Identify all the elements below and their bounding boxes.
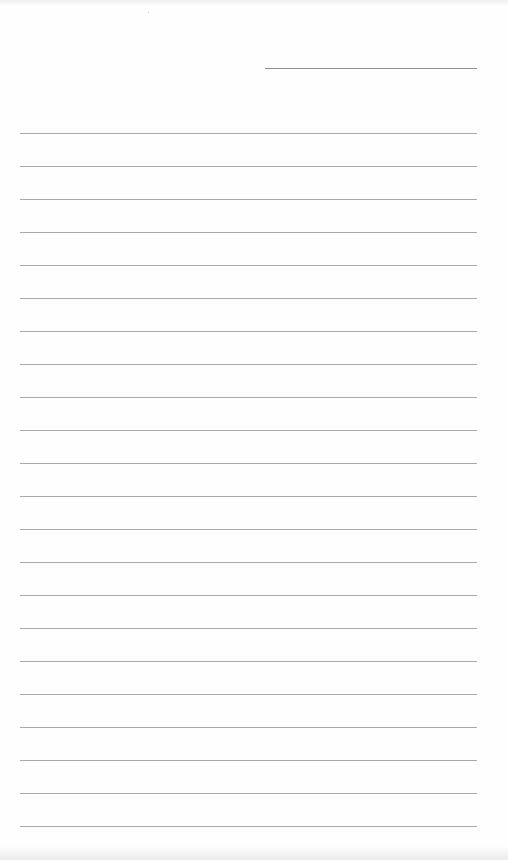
- ruled-line: [20, 529, 477, 530]
- ruled-line: [20, 199, 477, 200]
- paper-speck: [148, 12, 149, 13]
- bottom-edge-shade: [0, 846, 508, 860]
- ruled-line: [20, 298, 477, 299]
- ruled-line: [20, 331, 477, 332]
- ruled-line: [20, 595, 477, 596]
- ruled-line: [20, 496, 477, 497]
- top-edge-shade: [0, 0, 508, 6]
- ruled-line: [20, 397, 477, 398]
- ruled-line: [20, 760, 477, 761]
- ruled-line: [20, 826, 477, 827]
- ruled-line: [20, 463, 477, 464]
- ruled-line: [20, 133, 477, 134]
- ruled-line: [20, 232, 477, 233]
- ruled-line: [20, 562, 477, 563]
- ruled-line: [20, 364, 477, 365]
- ruled-line: [20, 430, 477, 431]
- header-name-line: [265, 68, 477, 69]
- ruled-line: [20, 661, 477, 662]
- ruled-line: [20, 694, 477, 695]
- ruled-line: [20, 793, 477, 794]
- lined-paper-page: [0, 0, 508, 860]
- ruled-line: [20, 727, 477, 728]
- ruled-line: [20, 265, 477, 266]
- ruled-line: [20, 628, 477, 629]
- ruled-line: [20, 166, 477, 167]
